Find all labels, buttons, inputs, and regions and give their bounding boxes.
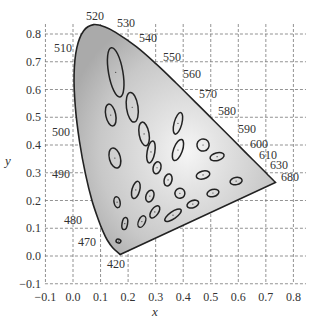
y-tick-labels: −0.10.00.10.20.30.40.50.60.70.8	[19, 27, 41, 291]
y-tick-label: 0.1	[26, 221, 41, 235]
wavelength-label-490: 490	[52, 167, 70, 181]
x-tick-label: 0.4	[176, 290, 191, 304]
wavelength-label-510: 510	[54, 41, 72, 55]
wavelength-label-520: 520	[86, 9, 104, 23]
y-tick-label: 0.2	[26, 194, 41, 208]
x-axis-label: x	[151, 304, 158, 319]
x-tick-label: 0.6	[231, 290, 246, 304]
wavelength-label-470: 470	[78, 235, 96, 249]
wavelength-label-680: 680	[281, 170, 299, 184]
y-tick-label: 0.6	[26, 83, 41, 97]
y-tick-label: 0.0	[26, 249, 41, 263]
x-tick-label: −0.1	[35, 290, 57, 304]
wavelength-label-530: 530	[117, 16, 135, 30]
y-tick-label: 0.8	[26, 27, 41, 41]
y-tick-label: 0.3	[26, 166, 41, 180]
x-tick-label: 0.7	[258, 290, 273, 304]
cie-chromaticity-chart: 4204704804905005105205305405505605705805…	[0, 0, 313, 322]
wavelength-label-420: 420	[107, 257, 125, 271]
wavelength-label-570: 570	[199, 87, 217, 101]
x-tick-label: 0.8	[286, 290, 301, 304]
wavelength-label-540: 540	[139, 31, 157, 45]
wavelength-label-550: 550	[163, 50, 181, 64]
wavelength-label-500: 500	[52, 125, 70, 139]
x-tick-label: 0.2	[121, 290, 136, 304]
wavelength-label-580: 580	[218, 104, 236, 118]
y-tick-label: 0.5	[26, 110, 41, 124]
wavelength-label-560: 560	[183, 67, 201, 81]
y-tick-label: 0.4	[26, 138, 41, 152]
y-axis-label: y	[3, 153, 11, 168]
wavelength-label-590: 590	[238, 122, 256, 136]
wavelength-label-480: 480	[64, 213, 82, 227]
x-tick-label: 0.3	[148, 290, 163, 304]
y-tick-label: 0.7	[26, 55, 41, 69]
y-tick-label: −0.1	[19, 277, 41, 291]
x-tick-label: 0.5	[203, 290, 218, 304]
x-tick-label: 0.0	[66, 290, 81, 304]
x-tick-labels: −0.10.00.10.20.30.40.50.60.70.8	[35, 290, 301, 304]
x-tick-label: 0.1	[93, 290, 108, 304]
